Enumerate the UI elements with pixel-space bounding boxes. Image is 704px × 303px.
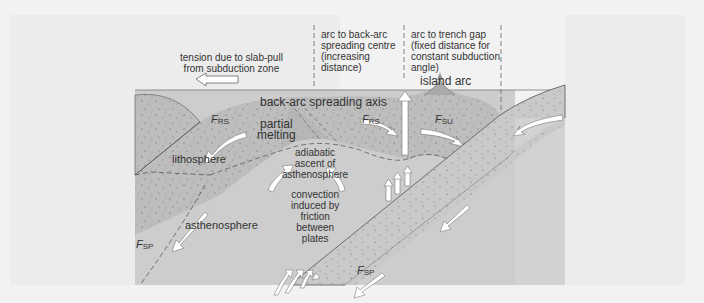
force-fsp-left: FSP	[136, 238, 153, 251]
island-arc-label: island arc	[420, 76, 471, 87]
adiabatic-ascent-label: adiabatic ascent of asthenosphere	[282, 147, 348, 180]
force-frs-right: FRS	[362, 113, 380, 126]
force-frs-left: FRS	[211, 113, 229, 126]
force-fsp-slab: FSP	[357, 264, 374, 277]
lithosphere-label: lithosphere	[172, 154, 226, 165]
spreading-axis-label: back-arc spreading axis	[260, 97, 387, 108]
arc-to-trench-label: arc to trench gap (fixed distance for co…	[411, 29, 500, 73]
arc-to-backarc-label: arc to back-arc spreading centre (increa…	[321, 29, 396, 73]
asthenosphere-label: asthenosphere	[185, 220, 258, 231]
convection-label: convection induced by friction between p…	[291, 189, 339, 244]
partial-melting-label: partial melting	[257, 119, 296, 141]
panel-right	[565, 15, 685, 285]
tension-label: tension due to slab-pull from subduction…	[180, 52, 283, 74]
force-fsu: FSU	[435, 113, 453, 126]
deep-mantle-right	[515, 118, 565, 285]
